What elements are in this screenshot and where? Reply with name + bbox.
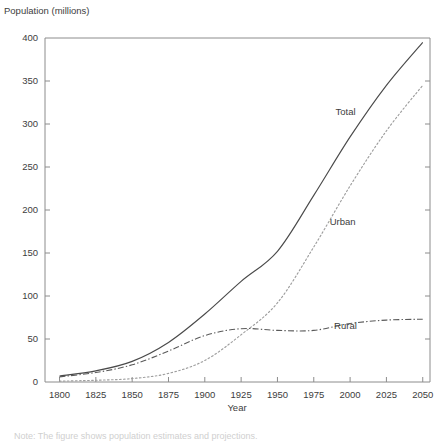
y-axis-title: Population (millions): [4, 5, 90, 16]
x-tick-label-1925: 1925: [231, 389, 252, 400]
y-axis-ticks-left: [45, 81, 50, 339]
x-tick-label-2050: 2050: [412, 389, 433, 400]
series-line-urban: [60, 85, 423, 381]
x-tick-label-1800: 1800: [49, 389, 70, 400]
y-tick-label-150: 150: [22, 247, 38, 258]
chart-svg: Population (millions) 050100150200250300…: [0, 0, 448, 442]
x-tick-label-1825: 1825: [85, 389, 106, 400]
y-tick-label-250: 250: [22, 161, 38, 172]
x-axis-title: Year: [227, 402, 246, 413]
x-tick-label-2000: 2000: [340, 389, 361, 400]
y-tick-label-100: 100: [22, 290, 38, 301]
x-tick-label-1875: 1875: [158, 389, 179, 400]
plot-frame: [45, 38, 430, 382]
footer-cutoff-text: Note: The figure shows population estima…: [14, 430, 434, 442]
y-tick-label-0: 0: [33, 376, 38, 387]
y-tick-label-200: 200: [22, 204, 38, 215]
x-tick-label-2025: 2025: [376, 389, 397, 400]
series-label-rural: Rural: [334, 320, 357, 331]
x-tick-label-1950: 1950: [267, 389, 288, 400]
y-tick-label-350: 350: [22, 75, 38, 86]
x-tick-label-1850: 1850: [122, 389, 143, 400]
y-tick-label-400: 400: [22, 32, 38, 43]
x-tick-label-1975: 1975: [303, 389, 324, 400]
x-axis-ticks: [60, 377, 423, 382]
y-axis-ticks-right: [425, 81, 430, 339]
series-line-total: [60, 42, 423, 376]
population-chart: Population (millions) 050100150200250300…: [0, 0, 448, 442]
y-tick-label-50: 50: [27, 333, 38, 344]
series-annotations: TotalUrbanRural: [330, 106, 357, 330]
series-label-total: Total: [336, 106, 356, 117]
series-line-rural: [60, 319, 423, 377]
x-axis-tick-labels: 1800182518501875190019251950197520002025…: [49, 389, 433, 400]
y-axis-tick-labels: 050100150200250300350400: [22, 32, 38, 387]
x-tick-label-1900: 1900: [194, 389, 215, 400]
y-tick-label-300: 300: [22, 118, 38, 129]
series-label-urban: Urban: [330, 216, 356, 227]
